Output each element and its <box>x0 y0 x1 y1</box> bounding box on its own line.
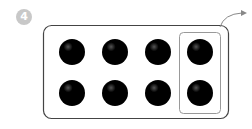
counter <box>187 39 213 65</box>
counter <box>187 80 213 106</box>
counter <box>59 80 85 106</box>
counter <box>102 80 128 106</box>
counter <box>145 80 171 106</box>
curved-arrow-icon <box>220 10 247 27</box>
counters-row-2 <box>59 80 213 106</box>
counters-row-1 <box>59 39 213 65</box>
ten-frame-diagram <box>0 0 252 129</box>
counter <box>145 39 171 65</box>
counter <box>102 39 128 65</box>
counter <box>59 39 85 65</box>
